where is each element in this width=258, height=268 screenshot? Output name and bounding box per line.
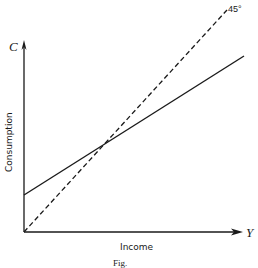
x-axis-title: Income xyxy=(120,243,153,252)
x-axis-letter: Y xyxy=(246,226,253,239)
consumption-function-line xyxy=(24,56,244,195)
y-axis-letter: C xyxy=(9,40,18,53)
y-axis-title: Consumption xyxy=(5,112,14,172)
line-45-label: 45° xyxy=(228,5,242,14)
figure-caption: Fig. xyxy=(113,259,127,268)
line-45-degree xyxy=(24,10,227,232)
